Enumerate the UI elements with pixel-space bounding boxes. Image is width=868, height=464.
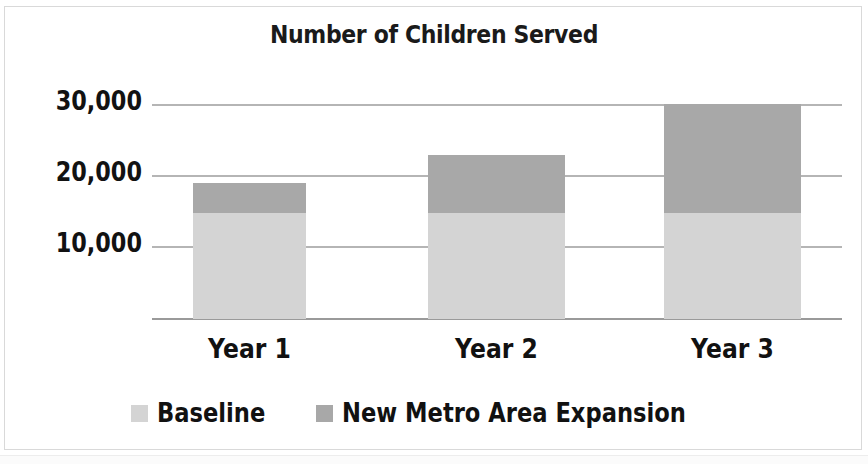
plot-area: 30,000 20,000 10,000 Year 1 Year 2 Year … xyxy=(0,0,868,464)
ytick-label-10000: 10,000 xyxy=(13,228,142,258)
legend-item-expansion[interactable]: New Metro Area Expansion xyxy=(316,398,737,428)
legend-swatch-expansion-icon xyxy=(316,405,333,422)
chart-container: Number of Children Served 30,000 20,000 … xyxy=(0,0,868,464)
bar-segment-expansion-year-1[interactable] xyxy=(193,183,306,213)
xtick-label-year-2: Year 2 xyxy=(430,333,563,364)
legend-swatch-baseline-icon xyxy=(131,405,148,422)
bar-segment-baseline-year-2[interactable] xyxy=(428,213,565,319)
xtick-label-year-3: Year 3 xyxy=(666,333,799,364)
xtick-label-year-1: Year 1 xyxy=(183,333,316,364)
bar-segment-expansion-year-3[interactable] xyxy=(664,104,801,213)
ytick-label-30000: 30,000 xyxy=(13,86,142,116)
chart-legend: Baseline New Metro Area Expansion xyxy=(0,398,868,428)
page-bottom-band xyxy=(0,455,868,464)
bar-group-year-2[interactable] xyxy=(428,0,565,464)
bar-segment-expansion-year-2[interactable] xyxy=(428,155,565,213)
bar-group-year-3[interactable] xyxy=(664,0,801,464)
legend-label-baseline: Baseline xyxy=(157,398,265,428)
bar-group-year-1[interactable] xyxy=(193,0,306,464)
legend-label-expansion: New Metro Area Expansion xyxy=(342,398,686,428)
bar-segment-baseline-year-3[interactable] xyxy=(664,213,801,319)
legend-item-baseline[interactable]: Baseline xyxy=(131,398,281,428)
ytick-label-20000: 20,000 xyxy=(13,157,142,187)
bar-segment-baseline-year-1[interactable] xyxy=(193,213,306,319)
